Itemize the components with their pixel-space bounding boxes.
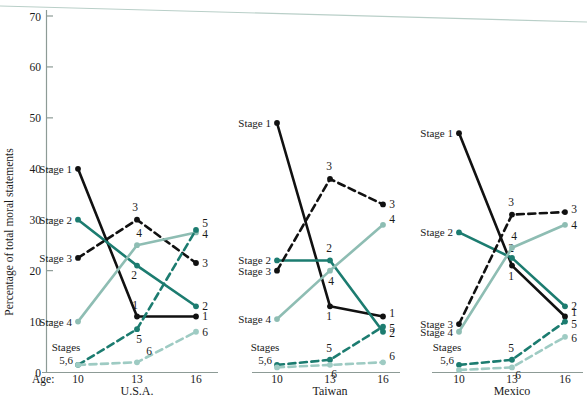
data-point-marker [562,314,568,320]
data-point-marker [456,362,462,368]
data-point-marker [75,319,81,325]
data-point-marker [380,324,386,330]
x-tick-label: 10 [72,373,84,385]
data-point-label: 5 [326,342,332,354]
stage-series-label: Stage 3 [238,265,271,277]
y-tick-label: 20 [30,265,42,277]
panel-name-label: Mexico [494,384,531,398]
data-point-marker [327,258,333,264]
data-point-marker [456,329,462,335]
data-point-label: 1 [508,270,514,282]
data-point-marker [380,359,386,365]
data-point-marker [274,365,280,371]
stage-series-label: Stage 3 [39,252,72,264]
data-point-marker [509,263,515,269]
data-point-marker [562,303,568,309]
data-point-label: 4 [202,228,208,240]
panel-name-label: U.S.A. [120,384,153,398]
y-tick-label: 60 [30,61,42,73]
data-point-label: 6 [515,369,521,381]
data-point-marker [327,176,333,182]
data-point-marker [562,319,568,325]
multi-panel-line-chart: 010203040506070Percentage of total moral… [0,0,587,406]
data-point-marker [134,359,140,365]
data-point-label: 2 [131,269,137,281]
data-point-label: 1 [326,310,332,322]
data-point-marker [134,217,140,223]
data-point-label: 4 [571,219,577,231]
stage-series-label: Stage 1 [39,163,72,175]
data-point-label: 3 [326,160,332,172]
data-point-label: 6 [146,345,152,357]
y-axis-title: Percentage of total moral statements [3,148,16,316]
data-point-marker [456,367,462,373]
x-tick-label: 10 [271,373,283,385]
data-point-marker [509,245,515,251]
data-point-label: 4 [328,275,334,287]
data-point-marker [193,329,199,335]
data-point-marker [380,202,386,208]
data-point-label: 3 [132,201,138,213]
data-point-marker [134,314,140,320]
data-point-marker [509,255,515,261]
data-point-label: 1 [389,307,395,319]
data-point-label: 6 [331,368,337,380]
series-line-stage-3 [277,179,383,271]
data-point-marker [456,230,462,236]
stage-series-label: Stage 2 [39,214,72,226]
data-point-label: 6 [202,326,208,338]
data-point-label: 6 [389,350,395,362]
data-point-marker [193,227,199,233]
x-tick-label: 16 [190,373,202,385]
data-point-marker [327,268,333,274]
data-point-label: 5 [508,342,514,354]
stage-56-label-line2: 5,6 [440,354,454,366]
x-tick-label: 16 [377,373,389,385]
panel-name-label: Taiwan [312,384,347,398]
data-point-label: 4 [511,230,517,242]
data-point-marker [274,268,280,274]
stage-56-label-line1: Stages [251,341,280,353]
age-axis-prefix: Age: [32,373,54,386]
data-point-marker [327,357,333,363]
data-point-marker [75,166,81,172]
data-point-marker [134,242,140,248]
stage-56-label-line1: Stages [433,341,462,353]
data-point-label: 2 [202,300,208,312]
data-point-label: 5 [136,333,142,345]
data-point-marker [509,357,515,363]
data-point-label: 5 [389,322,395,334]
stage-56-label-line2: 5,6 [258,354,272,366]
data-point-marker [274,120,280,126]
data-point-marker [193,314,199,320]
data-point-marker [134,326,140,332]
stage-series-label: Stage 1 [420,127,453,139]
data-point-label: 3 [571,203,577,215]
data-point-marker [274,258,280,264]
y-tick-label: 50 [30,112,42,124]
data-point-label: 5 [571,318,577,330]
data-point-label: 2 [326,242,332,254]
data-point-marker [380,314,386,320]
y-tick-label: 70 [30,11,42,23]
data-point-label: 4 [389,213,395,225]
data-point-label: 4 [136,227,142,239]
data-point-label: 3 [508,196,514,208]
data-point-marker [562,334,568,340]
data-point-marker [509,365,515,371]
data-point-label: 6 [571,332,577,344]
data-point-label: 1 [132,299,138,311]
data-point-marker [193,303,199,309]
data-point-label: 2 [571,300,577,312]
x-tick-label: 10 [453,373,465,385]
scan-artifact-line [0,6,587,22]
data-point-label: 3 [202,257,208,269]
data-point-marker [193,260,199,266]
data-point-marker [75,362,81,368]
data-point-marker [274,316,280,322]
stage-series-label: Stage 2 [420,226,453,238]
data-point-marker [380,329,386,335]
data-point-marker [509,212,515,218]
data-point-marker [327,303,333,309]
stage-series-label: Stage 1 [238,117,271,129]
